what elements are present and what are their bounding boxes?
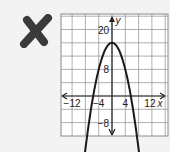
svg-text:−8: −8 <box>98 118 110 129</box>
svg-text:y: y <box>115 15 122 26</box>
svg-text:x: x <box>156 98 163 109</box>
svg-text:20: 20 <box>98 25 110 36</box>
svg-text:−12: −12 <box>64 98 81 109</box>
svg-text:−4: −4 <box>93 98 105 109</box>
svg-text:12: 12 <box>144 98 156 109</box>
parabola-graph: −12−4412x208−8y <box>0 0 170 152</box>
svg-text:8: 8 <box>103 64 109 75</box>
svg-text:4: 4 <box>123 98 129 109</box>
